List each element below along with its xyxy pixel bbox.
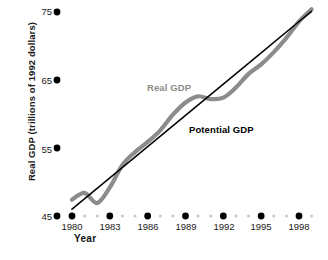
x-tick-label-1998: 1998 [282,221,316,232]
y-axis-tick [54,213,61,220]
y-axis-tick [54,77,61,84]
x-axis-minor-tick [83,214,86,217]
x-tick-label-1983: 1983 [93,221,127,232]
y-tick-label-55: 55 [30,144,52,155]
x-axis-major-tick [106,213,113,220]
x-axis-minor-tick [171,214,174,217]
x-axis-major-tick [144,213,151,220]
real-gdp-line [72,9,312,203]
x-axis-minor-tick [234,214,237,217]
x-axis-minor-tick [310,214,313,217]
x-axis-minor-tick [272,214,275,217]
x-axis-minor-tick [159,214,162,217]
x-axis-major-tick [220,213,227,220]
x-tick-label-1992: 1992 [207,221,241,232]
y-tick-label-45: 45 [30,211,52,222]
y-tick-label-65: 65 [30,75,52,86]
x-tick-label-1986: 1986 [131,221,165,232]
x-axis-minor-tick [285,214,288,217]
x-axis-minor-tick-dots [83,214,313,217]
y-tick-label-75: 75 [30,6,52,17]
x-axis-minor-tick [247,214,250,217]
x-axis-major-tick [258,213,265,220]
x-axis-major-tick [296,213,303,220]
x-tick-label-1980: 1980 [55,221,89,232]
x-axis-major-tick-dots [69,213,303,220]
y-axis-title: Real GDP (trillions of 1992 dollars) [26,9,37,195]
potential-gdp-line [72,11,312,209]
x-axis-title: Year [74,233,96,244]
series-label-potential-gdp: Potential GDP [189,124,254,135]
x-axis-major-tick [182,213,189,220]
y-axis-tick [54,145,61,152]
x-axis-minor-tick [133,214,136,217]
gdp-chart: Real GDP (trillions of 1992 dollars) 75 … [0,0,328,260]
x-axis-minor-tick [96,214,99,217]
x-axis-major-tick [69,213,76,220]
y-axis-tick [54,9,61,16]
y-axis-tick-dots [54,9,61,220]
x-axis-minor-tick [121,214,124,217]
x-axis-minor-tick [197,214,200,217]
x-axis-minor-tick [209,214,212,217]
series-label-real-gdp: Real GDP [147,82,191,93]
x-tick-label-1989: 1989 [169,221,203,232]
x-tick-label-1995: 1995 [244,221,278,232]
